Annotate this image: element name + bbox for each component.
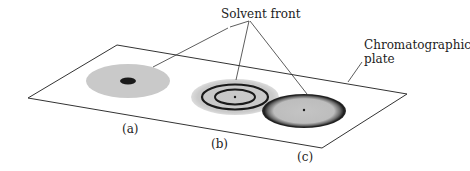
spot-a [86,64,170,98]
spot-c [262,94,346,128]
chromatography-diagram: Solvent front Chromatographic plate (a) … [0,0,470,171]
spot-b-label: (b) [211,137,228,151]
plate-leader [348,62,362,82]
spot-c-label: (c) [297,150,313,164]
plate-label-line2: plate [364,52,395,66]
spot-a-label: (a) [122,122,139,136]
plate-label-line1: Chromatographic [364,38,470,52]
diagram-graphics [0,0,470,171]
solvent-front-label: Solvent front [221,7,300,21]
